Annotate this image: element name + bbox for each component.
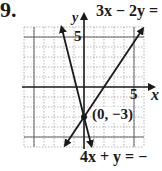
equation-top: 3x − 2y = <box>96 2 158 20</box>
x-axis-label: x <box>151 86 159 104</box>
y-axis-label: y <box>72 10 78 26</box>
intersection-point <box>81 114 87 120</box>
x-tick-label: 5 <box>130 87 138 102</box>
y-tick-label: 5 <box>74 28 82 45</box>
intersection-label: (0, −3) <box>92 107 133 122</box>
equation-bottom: 4x + y = − <box>80 148 147 166</box>
coordinate-graph <box>0 0 162 171</box>
